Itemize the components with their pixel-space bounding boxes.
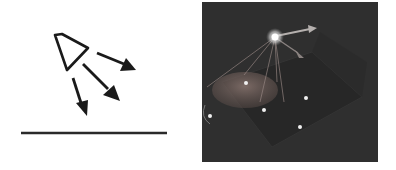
light-ray-arrow	[73, 78, 88, 116]
light-cone	[212, 72, 278, 108]
light-ray-arrow	[83, 64, 120, 101]
light-ray-arrow	[97, 53, 136, 71]
spotlight-render	[202, 2, 378, 162]
spotlight-schematic	[0, 0, 200, 170]
